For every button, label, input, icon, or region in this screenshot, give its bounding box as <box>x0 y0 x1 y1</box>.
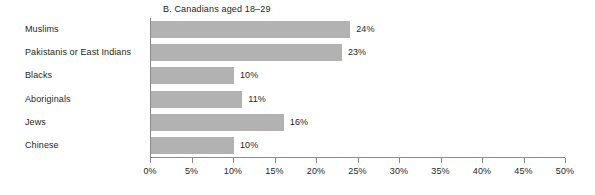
x-axis-tick <box>192 158 193 163</box>
bar-value-label: 16% <box>290 114 308 131</box>
x-axis-tick <box>524 158 525 163</box>
x-axis-tick-label: 50% <box>545 166 585 176</box>
x-axis-tick-label: 30% <box>379 166 419 176</box>
bar <box>151 44 342 61</box>
category-label: Pakistanis or East Indians <box>25 44 131 61</box>
bar-row: 10% <box>150 67 565 84</box>
bar-value-label: 23% <box>348 44 366 61</box>
x-axis-tick <box>358 158 359 163</box>
bar <box>151 67 234 84</box>
bar <box>151 114 284 131</box>
bar-row: 24% <box>150 21 565 38</box>
x-axis-tick <box>275 158 276 163</box>
x-axis-tick <box>441 158 442 163</box>
x-axis-tick <box>482 158 483 163</box>
bar <box>151 91 242 108</box>
x-axis-tick-label: 20% <box>296 166 336 176</box>
bar-value-label: 10% <box>240 67 258 84</box>
x-axis-tick-label: 35% <box>421 166 461 176</box>
bar-value-label: 10% <box>240 137 258 154</box>
x-axis-tick-label: 10% <box>213 166 253 176</box>
category-label: Chinese <box>25 137 59 154</box>
bar <box>151 137 234 154</box>
x-axis-tick-label: 40% <box>462 166 502 176</box>
x-axis-tick <box>399 158 400 163</box>
x-axis-tick <box>150 158 151 163</box>
x-axis-tick <box>233 158 234 163</box>
bar-chart: B. Canadians aged 18–29 MuslimsPakistani… <box>0 0 595 195</box>
category-label: Jews <box>25 114 46 131</box>
x-axis-tick <box>565 158 566 163</box>
plot-area: 24%23%10%11%16%10% <box>150 18 570 157</box>
category-axis-labels: MuslimsPakistanis or East IndiansBlacksA… <box>25 18 145 157</box>
category-label: Blacks <box>25 67 52 84</box>
x-axis-tick-label: 25% <box>338 166 378 176</box>
x-axis-tick-label: 15% <box>255 166 295 176</box>
chart-title: B. Canadians aged 18–29 <box>163 4 271 14</box>
x-axis: 0%5%10%15%20%25%30%35%40%45%50% <box>150 157 570 195</box>
bar-row: 16% <box>150 114 565 131</box>
x-axis-tick-label: 5% <box>172 166 212 176</box>
bar-row: 10% <box>150 137 565 154</box>
category-label: Aboriginals <box>25 91 71 108</box>
bar-value-label: 11% <box>248 91 266 108</box>
x-axis-tick-label: 0% <box>130 166 170 176</box>
x-axis-tick <box>316 158 317 163</box>
x-axis-tick-label: 45% <box>504 166 544 176</box>
bar-row: 23% <box>150 44 565 61</box>
bar-row: 11% <box>150 91 565 108</box>
bar-value-label: 24% <box>356 21 374 38</box>
category-label: Muslims <box>25 21 59 38</box>
bar <box>151 21 350 38</box>
